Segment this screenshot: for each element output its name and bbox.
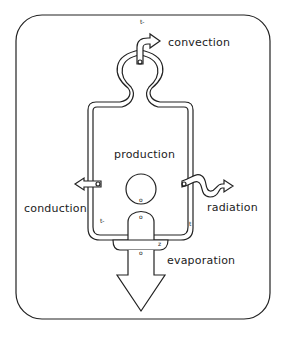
label-radiation: radiation [207, 201, 258, 214]
label-convection: convection [168, 36, 230, 49]
label-production: production [114, 148, 175, 161]
vessel-inner [93, 55, 188, 235]
label-evaporation: evaporation [167, 254, 235, 267]
mark-right-inner: t [189, 220, 191, 227]
mark-arrow-o: o [139, 249, 143, 256]
top-mark: t- [140, 18, 145, 25]
radiation-arrow [182, 175, 233, 197]
evaporation-arrow [117, 250, 165, 311]
heat-balance-diagram [0, 0, 289, 343]
label-conduction: conduction [24, 202, 87, 215]
mark-left-inner: t- [100, 217, 105, 224]
mark-center-o: o [139, 196, 143, 203]
mark-bottom-right: z [158, 240, 161, 247]
mark-lower-o: o [139, 213, 143, 220]
